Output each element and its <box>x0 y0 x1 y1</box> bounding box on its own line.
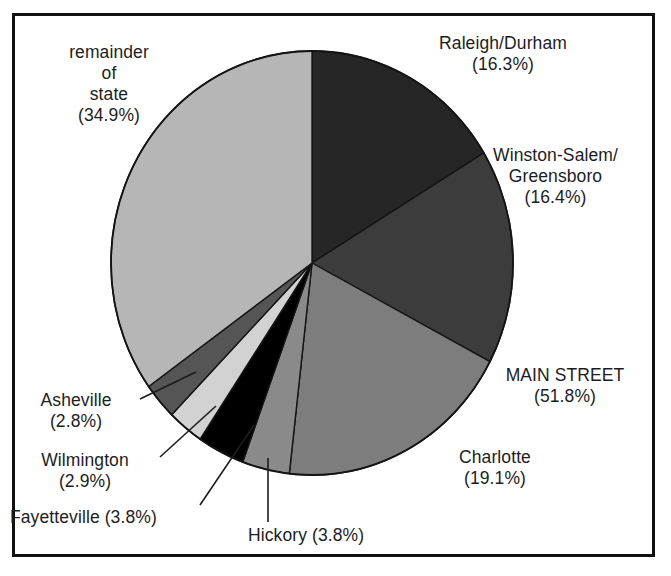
slice-label-hickory: Hickory (3.8%) <box>248 525 448 546</box>
slice-label-asheville: Asheville (2.8%) <box>10 390 142 432</box>
slice-label-wilmington: Wilmington (2.9%) <box>10 450 160 492</box>
slice-label-main-street: MAIN STREET (51.8%) <box>470 365 660 407</box>
pie-chart-figure: Raleigh/Durham (16.3%) Winston-Salem/ Gr… <box>0 0 671 576</box>
slice-label-winston-salem: Winston-Salem/ Greensboro (16.4%) <box>448 145 663 208</box>
slice-label-fayetteville: Fayetteville (3.8%) <box>10 507 255 528</box>
slice-label-raleigh-durham: Raleigh/Durham (16.3%) <box>378 33 628 75</box>
slice-label-remainder: remainder of state (34.9%) <box>20 42 198 126</box>
slice-label-charlotte: Charlotte (19.1%) <box>400 447 590 489</box>
